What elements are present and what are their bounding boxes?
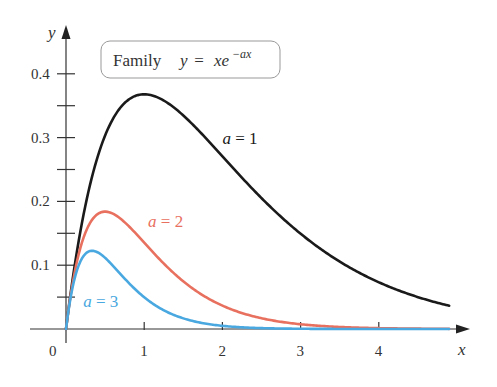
curves: [66, 94, 449, 329]
y-axis-label: y: [46, 23, 56, 42]
y-tick-label: 0.1: [31, 257, 50, 273]
x-tick-label: 4: [375, 343, 383, 359]
title-lhs: y: [178, 51, 188, 70]
curve-label-a-2: a = 2: [148, 212, 183, 231]
title-eq: =: [190, 51, 208, 70]
chart: Family y = xe −ax 12340.10.20.30.4 y x 0…: [0, 0, 497, 387]
title-word: Family: [113, 51, 162, 70]
x-axis-arrow-icon: [456, 325, 470, 334]
title-exponent: −ax: [232, 47, 252, 61]
curve-a-1: [66, 94, 449, 329]
curve-label-a-1: a = 1: [222, 129, 257, 148]
curve-labels: a = 1a = 2a = 3: [83, 129, 257, 311]
origin-label: 0: [49, 343, 57, 359]
curve-a-2: [66, 212, 449, 329]
x-tick-label: 2: [218, 343, 226, 359]
title-rhs: xe: [213, 51, 230, 70]
x-axis-label: x: [457, 340, 466, 359]
title-box: Family y = xe −ax: [101, 41, 280, 78]
y-tick-label: 0.2: [31, 193, 50, 209]
x-tick-label: 1: [140, 343, 148, 359]
y-tick-label: 0.4: [31, 66, 50, 82]
x-tick-label: 3: [297, 343, 305, 359]
y-axis-arrow-icon: [62, 25, 71, 39]
curve-label-a-3: a = 3: [83, 292, 118, 311]
y-tick-label: 0.3: [31, 130, 50, 146]
